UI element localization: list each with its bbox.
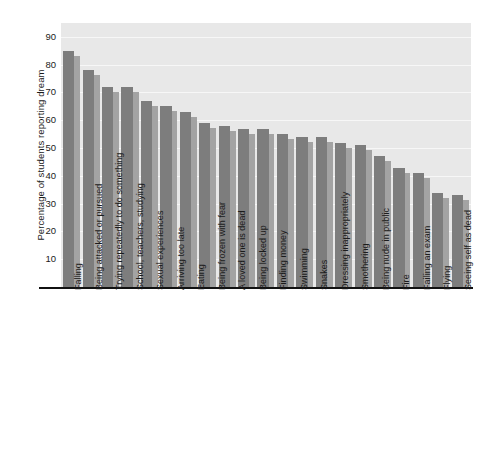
x-tick-label: Flying <box>443 266 452 290</box>
x-tick-label: Falling <box>74 263 83 290</box>
bar-slot <box>431 23 450 287</box>
bar-side-face <box>230 131 236 287</box>
x-tick-label: Dressing inappropriately <box>341 192 350 290</box>
x-tick-label: Seeing self as dead <box>464 210 473 290</box>
x-tick-label: Sexual experiences <box>156 211 165 290</box>
y-tick-label: 60 <box>4 115 56 125</box>
x-tick-label: Smothering <box>361 243 370 290</box>
x-tick-label: Being locked up <box>259 225 268 290</box>
bar-side-face <box>74 56 80 287</box>
bar-chart: Percentage of students reporting dream 9… <box>0 0 492 471</box>
y-tick-label: 50 <box>4 143 56 153</box>
x-tick-label: Failing an exam <box>423 226 432 290</box>
bar-front-face <box>83 70 94 287</box>
bar-side-face <box>269 134 275 287</box>
bar-slot <box>198 23 217 287</box>
bar-side-face <box>210 128 216 287</box>
bar <box>63 51 80 287</box>
y-tick-label: 20 <box>4 226 56 236</box>
x-axis-tick-labels: FallingBeing attacked or pursuedTrying r… <box>61 290 471 470</box>
bar-slot <box>392 23 411 287</box>
bar-front-face <box>452 195 463 287</box>
bar-side-face <box>405 173 411 287</box>
bar-front-face <box>63 51 74 287</box>
bar-front-face <box>199 123 210 287</box>
x-tick-label: Finding money <box>279 230 288 290</box>
x-tick-label: Eating <box>197 264 206 290</box>
y-tick-label: 90 <box>4 32 56 42</box>
bar <box>199 123 216 287</box>
x-tick-label: Being attacked or pursued <box>95 184 104 290</box>
bar <box>393 168 410 287</box>
y-tick-label: 70 <box>4 87 56 97</box>
y-tick-label: 80 <box>4 60 56 70</box>
bar-side-face <box>288 139 294 287</box>
bar-front-face <box>393 168 404 287</box>
y-axis-tick-labels: 908070605040302010 <box>0 23 56 287</box>
x-tick-label: School, teachers, studying <box>136 183 145 290</box>
x-tick-label: Swimming <box>300 248 309 290</box>
x-tick-label: Being frozen with fear <box>218 202 227 290</box>
y-tick-label: 30 <box>4 199 56 209</box>
y-tick-label: 40 <box>4 171 56 181</box>
x-tick-label: Snakes <box>320 260 329 290</box>
x-tick-label: Arriving too late <box>177 227 186 290</box>
bar-slot <box>314 23 333 287</box>
x-tick-label: A loved one is dead <box>238 210 247 290</box>
x-tick-label: Being nude in public <box>382 208 391 290</box>
bar-side-face <box>191 117 197 287</box>
x-tick-label: Fire <box>402 274 411 290</box>
bar-side-face <box>249 134 255 287</box>
bar-slot <box>62 23 81 287</box>
x-tick-label: Trying repeatedly to do something <box>115 153 124 290</box>
y-tick-label: 10 <box>4 254 56 264</box>
